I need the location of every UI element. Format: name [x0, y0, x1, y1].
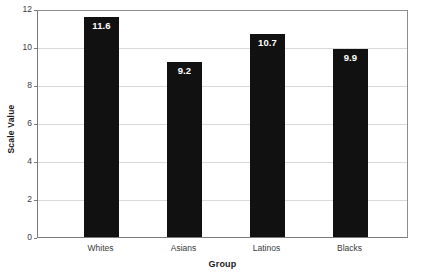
plot-area: 11.6 9.2 10.7 9.9 [37, 10, 408, 238]
bar-blacks[interactable]: 9.9 [333, 49, 368, 237]
bar-latinos[interactable]: 10.7 [250, 34, 285, 237]
bar-value-blacks: 9.9 [333, 52, 368, 63]
y-tick-label-8: 8 [2, 81, 32, 90]
y-axis-title: Scale Value [6, 94, 16, 164]
bar-value-whites: 11.6 [84, 20, 119, 31]
y-tick-label-10: 10 [2, 43, 32, 52]
x-axis-title: Group [37, 259, 408, 269]
x-tick-label-blacks: Blacks [309, 243, 390, 254]
y-tick-mark-0 [34, 238, 37, 239]
y-tick-label-12: 12 [2, 5, 32, 14]
x-tick-label-asians: Asians [143, 243, 224, 254]
x-axis: Whites Asians Latinos Blacks [37, 243, 408, 257]
y-tick-label-0: 0 [2, 233, 32, 242]
bar-asians[interactable]: 9.2 [167, 62, 202, 237]
bar-chart: 0 2 4 6 8 10 12 Scale Value 11.6 9.2 [0, 0, 422, 280]
bars-layer: 11.6 9.2 10.7 9.9 [38, 11, 407, 237]
bar-value-latinos: 10.7 [250, 37, 285, 48]
bar-value-asians: 9.2 [167, 65, 202, 76]
x-tick-label-latinos: Latinos [226, 243, 307, 254]
x-tick-label-whites: Whites [60, 243, 141, 254]
y-tick-label-2: 2 [2, 195, 32, 204]
bar-whites[interactable]: 11.6 [84, 17, 119, 237]
